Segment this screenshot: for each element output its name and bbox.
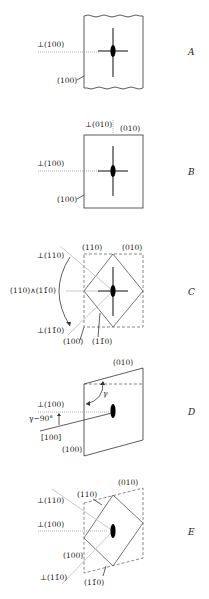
panel-c-label-face-110: (110): [82, 243, 102, 252]
panel-c-face-1m10-leader: [98, 313, 100, 337]
panel-e: (010) (110) ⊥(110) ⊥(100) (100) ⊥(11̄0) …: [37, 478, 195, 587]
panel-c-extinction-ellipse: [110, 285, 115, 297]
panel-c-perp-1m10-line: [68, 291, 113, 335]
panel-e-label-face-100: (100): [63, 551, 83, 560]
panel-d-label-perp-100: ⊥(100): [37, 400, 64, 409]
panel-c-label-angle: (110)∧(11̄0): [10, 286, 56, 295]
panel-c-arc-arrowhead: [66, 322, 71, 326]
crystal-orientation-diagram: ⊥(100) (100) A ⊥(010) (010) ⊥(100) (100)…: [0, 0, 209, 599]
panel-d-label-gamma: γ: [103, 389, 108, 398]
panel-d-label-gamma-minus-90: γ−90°: [29, 414, 53, 423]
panel-a-label-perp-100: ⊥(100): [37, 40, 64, 49]
panel-d-gamma-arc: [86, 382, 103, 404]
panel-c-label-perp-110: ⊥(110): [37, 251, 64, 260]
panel-c: (110) (010) ⊥(110) (110)∧(11̄0) ⊥(11̄0) …: [10, 243, 195, 346]
panel-a-extinction-ellipse: [110, 45, 115, 57]
panel-d: (010) γ ⊥(100) γ−90° [100] (100) D: [29, 358, 195, 456]
panel-c-label-face-100: (100): [63, 337, 83, 346]
panel-c-perp-110-line: [60, 246, 113, 291]
panel-d-marker-arrowhead: [57, 413, 61, 416]
panel-b-label-face-010: (010): [120, 124, 140, 133]
panel-a-face-100-leader: [77, 76, 84, 80]
panel-b-label-face-100: (100): [57, 195, 77, 204]
panel-d-label-face-100: (100): [62, 445, 82, 454]
panel-e-extinction-ellipse: [110, 524, 115, 538]
panel-d-label-axis-100: [100]: [41, 433, 61, 442]
panel-e-label-perp-1m10: ⊥(11̄0): [40, 573, 67, 582]
panel-b-label-perp-010: ⊥(010): [85, 120, 112, 129]
panel-d-gamma-arrowhead-upper: [100, 381, 105, 385]
panel-d-letter: D: [187, 407, 195, 417]
panel-c-label-face-010: (010): [122, 243, 142, 252]
panel-b: ⊥(010) (010) ⊥(100) (100) B: [37, 120, 195, 208]
panel-c-label-perp-1m10: ⊥(11̄0): [37, 326, 64, 335]
panel-b-extinction-ellipse: [110, 165, 115, 177]
panel-e-label-face-010: (010): [118, 478, 138, 487]
panel-e-letter: E: [187, 527, 195, 537]
panel-d-extinction-ellipse: [110, 404, 115, 418]
panel-b-face-100-leader: [77, 195, 84, 199]
panel-a: ⊥(100) (100) A: [37, 15, 195, 89]
panel-e-label-face-1m10: (11̄0): [84, 578, 104, 587]
panel-d-label-face-010: (010): [113, 358, 133, 367]
panel-a-label-face-100: (100): [57, 76, 77, 85]
panel-b-letter: B: [187, 167, 195, 177]
panel-e-face-110-leader: [93, 499, 102, 505]
panel-b-label-perp-100: ⊥(100): [37, 159, 64, 168]
panel-a-letter: A: [187, 47, 195, 57]
panel-c-letter: C: [188, 287, 195, 297]
panel-c-angle-arc: [59, 257, 70, 326]
panel-c-label-face-1m10: (11̄0): [92, 337, 112, 346]
panel-e-label-face-110: (110): [77, 490, 97, 499]
panel-e-label-perp-110: ⊥(110): [37, 496, 64, 505]
panel-e-label-perp-100: ⊥(100): [37, 520, 64, 529]
